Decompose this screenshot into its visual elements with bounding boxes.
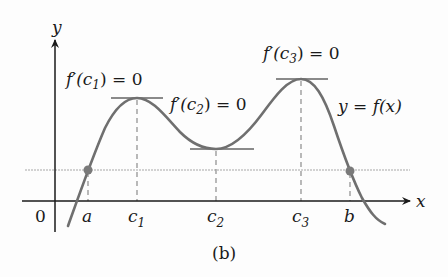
annotation-c1-suffix: ) = 0 (100, 69, 143, 89)
x-axis-label: x (416, 191, 426, 211)
annotation-c1-prefix: f′(c (64, 69, 93, 89)
annotation-c3-prefix: f′(c (261, 43, 290, 63)
annotation-c2-prefix: f′(c (168, 94, 197, 114)
tick-c2-base: c (207, 206, 217, 226)
annotation-c3: f′(c3) = 0 (261, 43, 339, 66)
tick-c3-sub: 3 (302, 216, 310, 230)
annotation-c1: f′(c1) = 0 (64, 69, 142, 92)
tick-c2-sub: 2 (216, 216, 225, 230)
annotation-c2-suffix: ) = 0 (204, 94, 247, 114)
origin-label: 0 (35, 206, 46, 226)
tick-c1-base: c (128, 206, 138, 226)
y-axis-label: y (51, 17, 62, 37)
annotation-c3-suffix: ) = 0 (297, 43, 340, 63)
diagram-canvas: y x 0 a c1 c2 c3 b f′(c1) = 0 f′(c2) = 0… (0, 0, 448, 277)
annotation-c1-sub: 1 (92, 78, 100, 92)
tangent-lines (111, 79, 328, 149)
tick-label-c3: c3 (292, 206, 310, 230)
tick-label-c1: c1 (128, 206, 145, 230)
figure-caption: (b) (212, 243, 236, 263)
curve-label: y = f(x) (337, 96, 402, 116)
tick-label-b: b (344, 206, 355, 226)
point-b (346, 167, 355, 176)
tick-label-a: a (82, 206, 92, 226)
point-a (84, 166, 93, 175)
tick-label-c2: c2 (207, 206, 224, 230)
tick-c3-base: c (292, 206, 302, 226)
tick-c1-sub: 1 (138, 216, 146, 230)
annotation-c2-sub: 2 (195, 103, 204, 117)
annotation-c2: f′(c2) = 0 (168, 94, 246, 117)
rolle-theorem-figure: y x 0 a c1 c2 c3 b f′(c1) = 0 f′(c2) = 0… (0, 0, 448, 277)
